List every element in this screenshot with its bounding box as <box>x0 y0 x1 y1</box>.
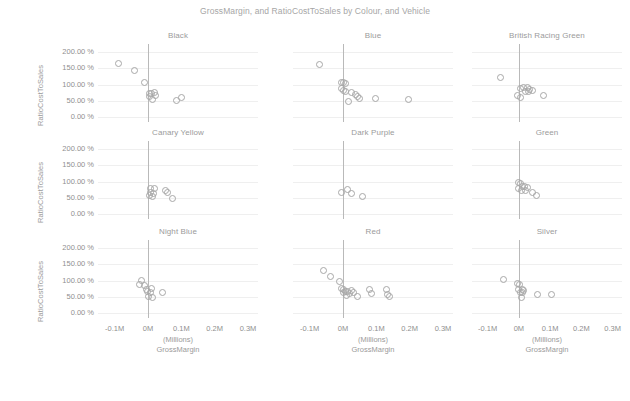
gridline <box>472 68 622 69</box>
gridline <box>293 281 453 282</box>
x-axis-label: GrossMargin <box>293 345 453 354</box>
zero-reference-line <box>519 240 520 318</box>
zero-reference-line <box>519 44 520 122</box>
data-point[interactable] <box>149 193 156 200</box>
panel-title: Red <box>293 227 453 236</box>
gridline <box>472 313 622 314</box>
data-point[interactable] <box>405 96 412 103</box>
data-point[interactable] <box>316 61 323 68</box>
gridline <box>98 281 258 282</box>
data-point[interactable] <box>141 79 148 86</box>
gridline <box>472 85 622 86</box>
gridline <box>472 165 622 166</box>
gridline <box>98 149 258 150</box>
panel-title: British Racing Green <box>472 31 622 40</box>
y-tick-label: 200.00 % <box>62 244 94 252</box>
x-axis-label: GrossMargin <box>472 345 622 354</box>
x-tick-label: 0.1M <box>368 324 385 333</box>
y-tick-label: 0.00 % <box>71 309 94 317</box>
gridline <box>293 297 453 298</box>
zero-reference-line <box>148 240 149 318</box>
zero-reference-line <box>343 240 344 318</box>
y-axis-ticks-row-3: 200.00 %150.00 %100.00 %50.00 %0.00 % <box>42 240 94 318</box>
plot-area <box>472 240 622 318</box>
gridline <box>293 264 453 265</box>
data-point[interactable] <box>525 88 532 95</box>
y-tick-label: 100.00 % <box>62 81 94 89</box>
data-point[interactable] <box>131 67 138 74</box>
gridline <box>98 214 258 215</box>
panel-title: Canary Yellow <box>98 128 258 137</box>
data-point[interactable] <box>159 289 166 296</box>
data-point[interactable] <box>115 60 122 67</box>
gridline <box>472 117 622 118</box>
y-tick-label: 150.00 % <box>62 161 94 169</box>
gridline <box>293 117 453 118</box>
data-point[interactable] <box>149 294 156 301</box>
gridline <box>98 52 258 53</box>
gridline <box>293 182 453 183</box>
gridline <box>472 198 622 199</box>
zero-reference-line <box>148 141 149 219</box>
gridline <box>98 297 258 298</box>
data-point[interactable] <box>386 293 393 300</box>
data-point[interactable] <box>497 74 504 81</box>
gridline <box>472 182 622 183</box>
data-point[interactable] <box>522 187 529 194</box>
x-axis-units: (Millions) <box>293 335 453 344</box>
gridline <box>472 248 622 249</box>
data-point[interactable] <box>345 98 352 105</box>
data-point[interactable] <box>169 195 176 202</box>
data-point[interactable] <box>517 94 524 101</box>
x-axis-col-1: -0.1M0M0.1M0.2M0.3M(Millions)GrossMargin <box>98 324 258 354</box>
y-tick-label: 0.00 % <box>71 113 94 121</box>
data-point[interactable] <box>327 273 334 280</box>
panel-green: Green <box>472 141 622 219</box>
data-point[interactable] <box>354 293 361 300</box>
y-tick-label: 50.00 % <box>66 97 94 105</box>
data-point[interactable] <box>518 294 525 301</box>
gridline <box>472 297 622 298</box>
x-tick-label: 0.1M <box>542 324 559 333</box>
x-tick-label: 0M <box>143 324 153 333</box>
data-point[interactable] <box>540 92 547 99</box>
data-point[interactable] <box>359 193 366 200</box>
x-axis-units: (Millions) <box>98 335 258 344</box>
x-tick-label: 0M <box>338 324 348 333</box>
gridline <box>293 68 453 69</box>
y-axis-label: RatioCostToSales <box>36 65 45 126</box>
data-point[interactable] <box>343 292 350 299</box>
panel-title: Dark Purple <box>293 128 453 137</box>
y-tick-label: 100.00 % <box>62 277 94 285</box>
data-point[interactable] <box>515 185 522 192</box>
panel-title: Blue <box>293 31 453 40</box>
gridline <box>293 165 453 166</box>
data-point[interactable] <box>372 95 379 102</box>
gridline <box>98 117 258 118</box>
data-point[interactable] <box>336 278 343 285</box>
gridline <box>293 85 453 86</box>
gridline <box>472 264 622 265</box>
panel-title: Black <box>98 31 258 40</box>
gridline <box>98 198 258 199</box>
y-tick-label: 50.00 % <box>66 194 94 202</box>
gridline <box>472 149 622 150</box>
gridline <box>98 165 258 166</box>
data-point[interactable] <box>368 290 375 297</box>
data-point[interactable] <box>320 267 327 274</box>
gridline <box>98 182 258 183</box>
data-point[interactable] <box>348 190 355 197</box>
panel-blue: Blue <box>293 44 453 122</box>
x-tick-label: -0.1M <box>300 324 319 333</box>
y-axis-label: RatioCostToSales <box>36 261 45 322</box>
plot-area <box>293 240 453 318</box>
x-axis-col-3: -0.1M0M0.1M0.2M0.3M(Millions)GrossMargin <box>472 324 622 354</box>
data-point[interactable] <box>146 93 153 100</box>
x-axis-units: (Millions) <box>472 335 622 344</box>
gridline <box>293 52 453 53</box>
zero-reference-line <box>343 141 344 219</box>
panel-night-blue: Night Blue <box>98 240 258 318</box>
y-tick-label: 150.00 % <box>62 64 94 72</box>
x-axis-label: GrossMargin <box>98 345 258 354</box>
y-tick-label: 200.00 % <box>62 48 94 56</box>
